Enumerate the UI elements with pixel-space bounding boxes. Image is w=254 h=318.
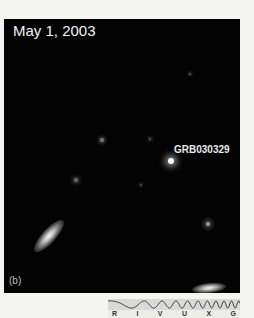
grb-object-label: GRB030329 xyxy=(174,144,230,155)
band-label: X xyxy=(206,310,211,318)
star xyxy=(168,158,174,164)
galaxy xyxy=(192,281,227,293)
band-label: I xyxy=(136,310,138,318)
star xyxy=(189,73,191,75)
star xyxy=(74,178,77,181)
star xyxy=(100,138,103,141)
galaxy xyxy=(30,216,69,257)
panel-label: (b) xyxy=(9,275,21,286)
electromagnetic-spectrum-bar: RIVUXG xyxy=(108,299,240,318)
date-label: May 1, 2003 xyxy=(13,22,96,39)
wave-icon xyxy=(108,299,240,310)
star xyxy=(206,222,210,226)
spectrum-band-labels: RIVUXG xyxy=(108,310,240,318)
star xyxy=(149,138,152,141)
sky-image: May 1, 2003 GRB030329 (b) xyxy=(4,19,240,293)
star xyxy=(140,184,143,187)
band-label: U xyxy=(182,310,187,318)
band-label: R xyxy=(112,310,117,318)
band-label: G xyxy=(231,310,236,318)
band-label: V xyxy=(158,310,163,318)
